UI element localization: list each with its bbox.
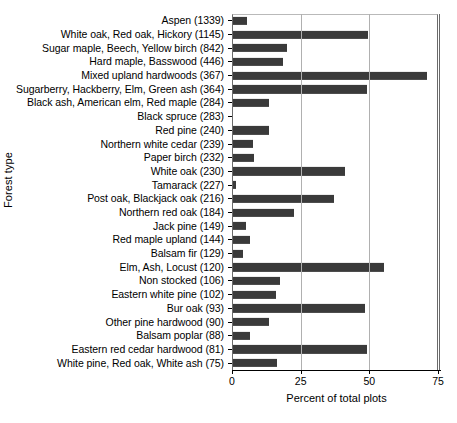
horizontal-bar-chart: Forest type Aspen (1339)White oak, Red o… xyxy=(0,0,457,423)
category-label: Hard maple, Basswood (446) xyxy=(16,56,228,67)
bar-cell xyxy=(232,55,441,69)
x-axis-tick-label: 0 xyxy=(229,375,235,387)
category-label: Non stocked (106) xyxy=(16,275,228,286)
y-axis-title-text: Forest type xyxy=(2,152,14,208)
bar-cell xyxy=(232,96,441,110)
bar-cell xyxy=(232,274,441,288)
category-label: Sugar maple, Beech, Yellow birch (842) xyxy=(16,43,228,54)
bar xyxy=(232,208,294,216)
category-label: Tamarack (227) xyxy=(16,180,228,191)
bar-row: White pine, Red oak, White ash (75) xyxy=(16,356,441,370)
x-axis-line xyxy=(232,370,441,371)
category-label: Paper birch (232) xyxy=(16,152,228,163)
plot-area: Aspen (1339)White oak, Red oak, Hickory … xyxy=(16,14,441,370)
bar xyxy=(232,195,334,203)
bar-cell xyxy=(232,28,441,42)
bar-cell xyxy=(232,356,441,370)
bar-cell xyxy=(232,315,441,329)
bar-row: Bur oak (93) xyxy=(16,302,441,316)
x-axis-tick xyxy=(232,370,233,374)
category-label: Red pine (240) xyxy=(16,125,228,136)
bar-cell xyxy=(232,343,441,357)
bar-row: Red pine (240) xyxy=(16,124,441,138)
bar-row: Other pine hardwood (90) xyxy=(16,315,441,329)
bar-cell xyxy=(232,219,441,233)
bar-row: Balsam poplar (88) xyxy=(16,329,441,343)
bar xyxy=(232,345,367,353)
x-axis-tick-label: 25 xyxy=(295,375,307,387)
bar-row: Jack pine (149) xyxy=(16,219,441,233)
category-label: White oak (230) xyxy=(16,166,228,177)
bar-cell xyxy=(232,288,441,302)
bar-row: Elm, Ash, Locust (120) xyxy=(16,260,441,274)
bar-row: Tamarack (227) xyxy=(16,178,441,192)
bar-row: Eastern white pine (102) xyxy=(16,288,441,302)
bar-row: Hard maple, Basswood (446) xyxy=(16,55,441,69)
bar xyxy=(232,99,269,107)
bar-row: Non stocked (106) xyxy=(16,274,441,288)
bar xyxy=(232,277,280,285)
bar-row: White oak, Red oak, Hickory (1145) xyxy=(16,28,441,42)
bar-row: Eastern red cedar hardwood (81) xyxy=(16,343,441,357)
bar xyxy=(232,44,287,52)
category-label: Mixed upland hardwoods (367) xyxy=(16,70,228,81)
category-label: Aspen (1339) xyxy=(16,15,228,26)
category-label: Northern red oak (184) xyxy=(16,207,228,218)
bar-cell xyxy=(232,302,441,316)
bar-cell xyxy=(232,14,441,28)
category-label: Eastern red cedar hardwood (81) xyxy=(16,344,228,355)
bar-cell xyxy=(232,165,441,179)
bar xyxy=(232,318,269,326)
bar-row: Paper birch (232) xyxy=(16,151,441,165)
gridline xyxy=(301,14,302,370)
bar-cell xyxy=(232,151,441,165)
bar-row: Sugarberry, Hackberry, Elm, Green ash (3… xyxy=(16,82,441,96)
x-axis-title: Percent of total plots xyxy=(232,392,441,404)
bar xyxy=(232,250,243,258)
bar-cell xyxy=(232,260,441,274)
category-label: Eastern white pine (102) xyxy=(16,289,228,300)
bar xyxy=(232,222,246,230)
bar xyxy=(232,85,367,93)
bar xyxy=(232,181,236,189)
bar xyxy=(232,236,250,244)
bar xyxy=(232,332,250,340)
category-label: Red maple upland (144) xyxy=(16,234,228,245)
bar-row: Post oak, Blackjack oak (216) xyxy=(16,192,441,206)
bar-cell xyxy=(232,124,441,138)
bar-cell xyxy=(232,178,441,192)
bar xyxy=(232,72,427,80)
category-label: Northern white cedar (239) xyxy=(16,139,228,150)
bar-cell xyxy=(232,192,441,206)
bar xyxy=(232,58,283,66)
bar-row: Mixed upland hardwoods (367) xyxy=(16,69,441,83)
bar-cell xyxy=(232,233,441,247)
category-label: Black ash, American elm, Red maple (284) xyxy=(16,97,228,108)
category-label: Balsam fir (129) xyxy=(16,248,228,259)
category-label: Sugarberry, Hackberry, Elm, Green ash (3… xyxy=(16,84,228,95)
bar-row: Black spruce (283) xyxy=(16,110,441,124)
bar-row: Northern red oak (184) xyxy=(16,206,441,220)
bar xyxy=(232,154,254,162)
bar xyxy=(232,113,233,121)
bar-cell xyxy=(232,69,441,83)
x-axis-tick xyxy=(438,370,439,374)
bar xyxy=(232,359,277,367)
bar xyxy=(232,263,384,271)
bar-cell xyxy=(232,137,441,151)
category-label: Post oak, Blackjack oak (216) xyxy=(16,193,228,204)
bar-row: Sugar maple, Beech, Yellow birch (842) xyxy=(16,41,441,55)
bar-row: Northern white cedar (239) xyxy=(16,137,441,151)
x-axis-tick-label: 75 xyxy=(432,375,444,387)
bar xyxy=(232,304,365,312)
bar-row: Red maple upland (144) xyxy=(16,233,441,247)
x-axis-tick xyxy=(301,370,302,374)
bar xyxy=(232,291,276,299)
bar-cell xyxy=(232,41,441,55)
bar xyxy=(232,126,269,134)
category-label: Other pine hardwood (90) xyxy=(16,317,228,328)
bar-cell xyxy=(232,329,441,343)
bar-row: Balsam fir (129) xyxy=(16,247,441,261)
bar-row: Aspen (1339) xyxy=(16,14,441,28)
x-axis-tick xyxy=(369,370,370,374)
